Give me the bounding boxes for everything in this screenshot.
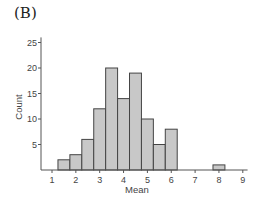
x-axis-label: Mean <box>125 184 149 195</box>
x-tick-label: 9 <box>240 175 245 185</box>
y-tick-label: 20 <box>27 63 37 73</box>
x-tick-label: 1 <box>49 175 54 185</box>
histogram-bar <box>82 139 94 170</box>
histogram-bar <box>141 119 153 170</box>
y-axis-label: Count <box>13 94 24 120</box>
y-tick-label: 10 <box>27 114 37 124</box>
histogram-bar <box>130 73 142 170</box>
histogram-bar <box>70 155 82 170</box>
y-tick-label: 25 <box>27 38 37 48</box>
histogram-bar <box>106 68 118 170</box>
histogram-bar <box>118 99 130 170</box>
histogram-bar <box>58 160 70 170</box>
x-tick-label: 6 <box>169 175 174 185</box>
histogram-chart: 510152025123456789MeanCount <box>0 0 261 206</box>
x-tick-label: 2 <box>73 175 78 185</box>
histogram-bar <box>153 145 165 171</box>
x-tick-label: 8 <box>216 175 221 185</box>
x-tick-label: 3 <box>97 175 102 185</box>
x-tick-label: 7 <box>193 175 198 185</box>
histogram-bar <box>165 129 177 170</box>
y-tick-label: 15 <box>27 89 37 99</box>
histogram-bar <box>94 109 106 170</box>
histogram-bar <box>213 165 225 170</box>
y-tick-label: 5 <box>32 140 37 150</box>
